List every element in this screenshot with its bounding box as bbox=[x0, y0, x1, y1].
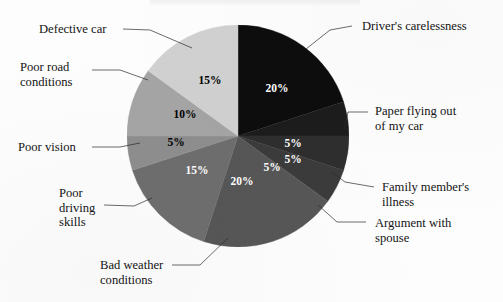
callout-label-poor-driving-skills: Poor driving skills bbox=[59, 186, 95, 230]
callout-label-poor-road-conditions: Poor road conditions bbox=[20, 60, 72, 89]
callout-label-defective-car: Defective car bbox=[39, 22, 106, 37]
callout-labels: Defective carPoor road conditionsPoor vi… bbox=[0, 0, 503, 302]
callout-label-poor-vision: Poor vision bbox=[18, 140, 76, 155]
callout-label-paper-flying-out-of-my-car: Paper flying out of my car bbox=[375, 104, 456, 133]
callout-label-drivers-carelessness: Driver's carelessness bbox=[362, 19, 467, 34]
callout-label-argument-with-spouse: Argument with spouse bbox=[375, 216, 451, 245]
callout-label-family-members-illness: Family member's illness bbox=[382, 180, 469, 209]
callout-label-bad-weather-conditions: Bad weather conditions bbox=[100, 258, 163, 287]
